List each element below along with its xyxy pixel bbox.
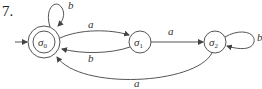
transition-s2-s0 [57,53,212,79]
transition-s1-s0 [62,47,130,53]
transition-s0-s1-label: a [88,18,94,30]
state-s1: σ1 [129,31,151,53]
state-s1-label: σ1 [134,36,143,50]
state-s2: σ2 [204,31,226,53]
transition-s0-s1 [60,31,129,38]
transition-s2-s2-label: b [257,31,262,43]
state-s0: σ0 [28,26,60,58]
transition-s0-s0 [48,4,63,27]
transition-s1-s2-label: a [168,25,174,37]
transition-s0-s0-label: b [68,0,74,11]
transition-s1-s0-label: b [88,52,94,64]
transition-s2-s0-label: a [134,77,140,89]
state-s0-label: σ0 [38,36,47,50]
transition-s2-s2 [225,32,254,49]
automaton-diagram: σ0 b a b σ1 a σ2 b a [0,0,262,89]
state-s2-label: σ2 [209,36,218,50]
